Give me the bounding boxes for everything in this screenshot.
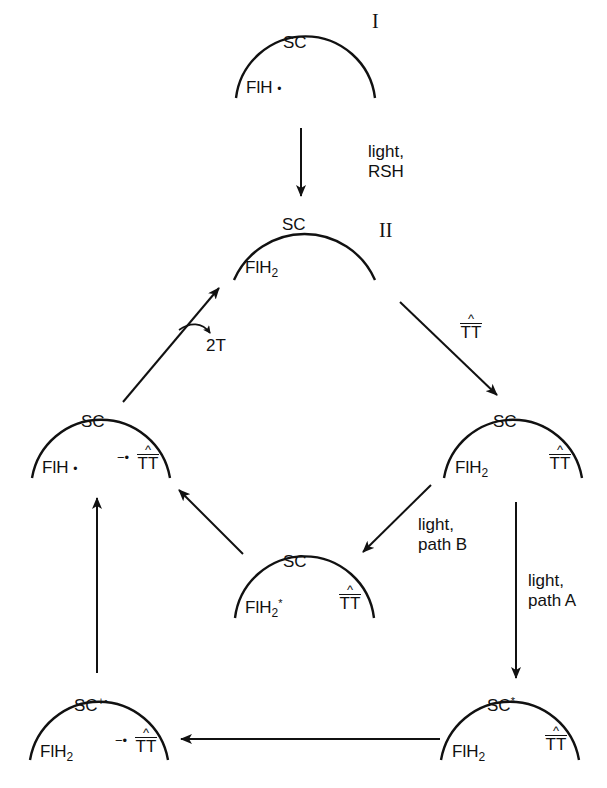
arrow-label-tt-dimer: ^TT xyxy=(458,313,484,341)
cofactor-label-excited-a: FlH2 xyxy=(452,742,485,762)
arrow-label-light-path-a: light,path A xyxy=(528,571,576,611)
protein-label-charge-sep: SC+• xyxy=(74,696,108,716)
protein-label-radical: SC xyxy=(81,412,105,432)
substrate-prefix-radical: −• xyxy=(117,448,129,468)
substrate-label-excited-a: ^TT xyxy=(543,725,569,753)
protein-label-II: SC xyxy=(282,215,306,235)
protein-label-excited-b: SC xyxy=(283,552,307,572)
diagram-canvas xyxy=(0,0,607,788)
protein-label-bound: SC xyxy=(493,412,517,432)
substrate-label-bound: ^TT xyxy=(547,444,573,472)
arrow-radical-to-II xyxy=(123,288,219,402)
release-label-2T: 2T xyxy=(206,336,226,356)
arrow-label-light-rsh: light,RSH xyxy=(368,142,404,182)
cofactor-label-excited-b: FlH2* xyxy=(245,598,282,618)
substrate-prefix-charge-sep: −• xyxy=(115,731,127,751)
cofactor-label-charge-sep: FlH2 xyxy=(40,742,73,762)
arrow-label-light-path-b: light,path B xyxy=(418,515,467,555)
cofactor-label-II: FlH2 xyxy=(245,258,278,278)
cofactor-label-radical: FlH • xyxy=(42,458,77,479)
radical-dot: • xyxy=(73,462,77,476)
substrate-label-excited-b: ^TT xyxy=(337,584,363,612)
substrate-label-charge-sep: ^TT xyxy=(133,727,159,755)
arrow-excited-B-to-radical xyxy=(179,490,243,554)
cofactor-label-I: FlH • xyxy=(246,78,281,99)
cofactor-label-bound: FlH2 xyxy=(455,458,488,478)
state-label-II: II xyxy=(379,219,392,242)
protein-label-excited-a: SC* xyxy=(487,696,515,716)
radical-dot: • xyxy=(277,82,281,96)
state-label-I: I xyxy=(372,10,379,33)
substrate-label-radical: ^TT xyxy=(135,444,161,472)
protein-label-I: SC xyxy=(283,33,307,53)
